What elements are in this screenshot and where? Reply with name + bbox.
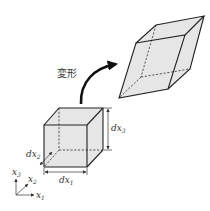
original-cube xyxy=(44,108,103,167)
cube-front-face xyxy=(44,125,87,167)
dx1-dimension: dx1 xyxy=(44,168,87,186)
deformation-label: 変形 xyxy=(57,67,77,79)
dx2-label: dx2 xyxy=(26,149,41,160)
x1-axis-label: x1 xyxy=(36,190,45,201)
deformation-arrow: 変形 xyxy=(57,64,116,104)
x2-axis-label: x2 xyxy=(28,174,37,185)
dx3-dimension: dx3 xyxy=(104,108,126,150)
deformation-diagram: dx3 dx1 dx2 変形 x3 x2 x1 xyxy=(0,0,210,211)
x2-axis-arrow xyxy=(16,184,28,195)
coordinate-axes: x3 x2 x1 xyxy=(12,167,45,201)
deformed-shape xyxy=(119,16,204,98)
x3-axis-label: x3 xyxy=(12,167,21,178)
curved-arrow-icon xyxy=(81,64,116,104)
dx3-label: dx3 xyxy=(111,123,126,134)
dx1-label: dx1 xyxy=(59,175,74,186)
